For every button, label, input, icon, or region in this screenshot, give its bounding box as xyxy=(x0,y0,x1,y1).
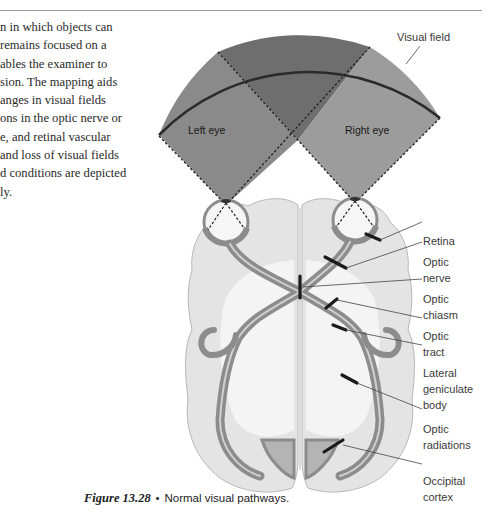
label-optic-tract-1: Optic xyxy=(423,330,449,342)
label-optic-nerve-2: nerve xyxy=(423,272,451,284)
label-optic-radiations-1: Optic xyxy=(423,423,449,435)
label-optic-chiasm-2: chiasm xyxy=(423,309,458,321)
label-lgb-2: geniculate xyxy=(423,383,473,395)
caption-text: Normal visual pathways. xyxy=(164,492,289,504)
figure-caption: Figure 13.28 • Normal visual pathways. xyxy=(84,491,289,506)
label-optic-chiasm-1: Optic xyxy=(423,293,449,305)
label-optic-tract-2: tract xyxy=(423,346,444,358)
right-eye-label: Right eye xyxy=(345,124,390,136)
structure-labels: Retina Optic nerve Optic chiasm Optic tr… xyxy=(423,235,473,503)
label-occipital-cortex-2: cortex xyxy=(423,491,453,503)
left-eye-label: Left eye xyxy=(188,124,226,136)
label-lgb-1: Lateral xyxy=(423,367,457,379)
visual-field-label: Visual field xyxy=(397,31,450,43)
label-occipital-cortex-1: Occipital xyxy=(423,475,465,487)
label-retina: Retina xyxy=(423,235,456,247)
visual-field: Left eye Right eye Visual field xyxy=(159,31,450,205)
figure-number: Figure 13.28 xyxy=(84,491,151,505)
label-lgb-3: body xyxy=(423,399,447,411)
label-optic-radiations-2: radiations xyxy=(423,439,471,451)
caption-bullet: • xyxy=(156,492,160,504)
visual-pathways-diagram: Left eye Right eye Visual field xyxy=(0,0,488,514)
label-optic-nerve-1: Optic xyxy=(423,256,449,268)
